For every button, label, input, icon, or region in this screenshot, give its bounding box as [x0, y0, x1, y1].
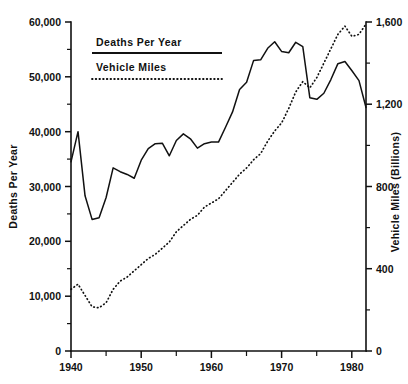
right-axis-ticks	[366, 22, 372, 351]
bottom-axis-labels: 1940 1950 1960 1970 1980	[59, 361, 363, 373]
left-tick-label-40000: 40,000	[29, 126, 61, 138]
right-tick-label-0: 0	[376, 345, 382, 357]
x-tick-label-1950: 1950	[130, 361, 154, 373]
left-tick-label-30000: 30,000	[29, 181, 61, 193]
x-tick-label-1980: 1980	[340, 361, 364, 373]
legend-label-vehicle-miles: Vehicle Miles	[96, 61, 167, 73]
left-axis-ticks	[65, 22, 71, 351]
left-axis-labels: 60,000 50,000 40,000 30,000 20,000 10,00…	[29, 16, 61, 357]
bottom-axis-ticks	[71, 351, 352, 358]
left-tick-label-20000: 20,000	[29, 235, 61, 247]
dual-axis-line-chart: 60,000 50,000 40,000 30,000 20,000 10,00…	[0, 0, 408, 384]
x-tick-label-1960: 1960	[200, 361, 224, 373]
chart-container: 60,000 50,000 40,000 30,000 20,000 10,00…	[0, 0, 408, 384]
x-tick-label-1970: 1970	[270, 361, 294, 373]
legend: Deaths Per Year Vehicle Miles	[92, 36, 222, 79]
right-tick-label-1600: 1,600	[376, 16, 402, 28]
legend-label-deaths-per-year: Deaths Per Year	[96, 36, 182, 48]
right-tick-label-400: 400	[376, 263, 394, 275]
x-tick-label-1940: 1940	[59, 361, 83, 373]
left-tick-label-10000: 10,000	[29, 290, 61, 302]
left-tick-label-60000: 60,000	[29, 16, 61, 28]
left-tick-label-0: 0	[55, 345, 61, 357]
right-axis-title: Vehicle Miles (Billions)	[389, 132, 401, 252]
left-tick-label-50000: 50,000	[29, 71, 61, 83]
left-axis-title: Deaths Per Year	[7, 144, 19, 228]
right-tick-label-1200: 1,200	[376, 98, 402, 110]
